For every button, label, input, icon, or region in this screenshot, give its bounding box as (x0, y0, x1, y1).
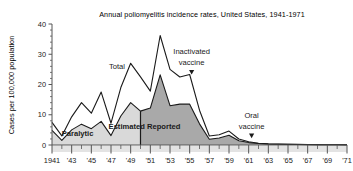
x-tick-label: '63 (264, 156, 274, 165)
x-tick-label: '49 (126, 156, 136, 165)
x-tick-label: '69 (323, 156, 333, 165)
chart-annotation: vaccine (179, 58, 205, 67)
x-tick-label: '71 (342, 156, 352, 165)
x-tick-label: 1941 (44, 156, 60, 165)
y-tick-label: 10 (38, 110, 46, 119)
chart-title: Annual poliomyelitis incidence rates, Un… (99, 10, 305, 19)
x-tick-label: '65 (283, 156, 293, 165)
x-tick-label: '57 (205, 156, 215, 165)
poliomyelitis-incidence-chart: Annual poliomyelitis incidence rates, Un… (0, 0, 353, 171)
y-axis-title-group: Cases per 100,000 population (7, 36, 16, 135)
y-tick-label: 20 (38, 80, 46, 89)
x-tick-label: '59 (224, 156, 234, 165)
y-axis-label: Cases per 100,000 population (7, 36, 16, 135)
chart-title-group: Annual poliomyelitis incidence rates, Un… (99, 10, 305, 19)
chart-annotation: vaccine (239, 122, 265, 131)
y-tick-label: 0 (42, 141, 46, 150)
y-tick-label: 40 (38, 20, 46, 29)
chart-canvas: Annual poliomyelitis incidence rates, Un… (0, 0, 353, 171)
x-tick-label: '61 (244, 156, 254, 165)
x-tick-label: '51 (146, 156, 156, 165)
chart-annotation: Inactivated (173, 47, 210, 56)
x-tick-label: '53 (165, 156, 175, 165)
chart-annotation: Estimated Reported (109, 122, 181, 131)
event-marker-down-triangle-icon (189, 70, 194, 75)
event-marker-down-triangle-icon (249, 134, 254, 139)
x-tick-label: '43 (67, 156, 77, 165)
chart-annotation: Oral (244, 111, 259, 120)
y-axis-group: 010203040 (38, 20, 52, 150)
chart-annotation: Total (109, 62, 125, 71)
x-tick-label: '47 (106, 156, 116, 165)
chart-annotation: Paralytic (62, 129, 94, 138)
x-tick-label: '55 (185, 156, 195, 165)
x-tick-label: '67 (303, 156, 313, 165)
x-tick-label: '45 (87, 156, 97, 165)
y-tick-label: 30 (38, 50, 46, 59)
